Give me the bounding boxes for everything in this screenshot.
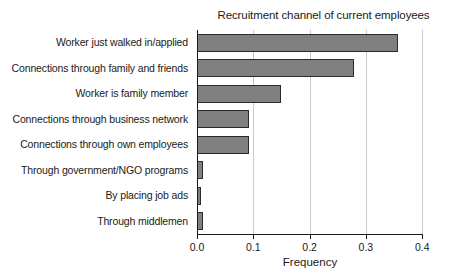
x-tick xyxy=(422,234,423,239)
x-tick xyxy=(197,234,198,239)
bar-slot xyxy=(197,56,422,82)
bar-slot xyxy=(197,30,422,56)
x-tick-label: 0.3 xyxy=(359,241,374,253)
category-axis-labels: Worker just walked in/appliedConnections… xyxy=(0,30,193,234)
bar[interactable] xyxy=(197,136,249,154)
x-tick xyxy=(253,234,254,239)
category-label: By placing job ads xyxy=(0,183,193,209)
category-label: Worker is family member xyxy=(0,81,193,107)
x-tick xyxy=(366,234,367,239)
bar-slot xyxy=(197,209,422,235)
bar[interactable] xyxy=(197,85,281,103)
bar[interactable] xyxy=(197,110,249,128)
x-tick-label: 0.0 xyxy=(190,241,205,253)
gridline-0.4 xyxy=(422,30,423,234)
x-tick-label: 0.4 xyxy=(415,241,430,253)
category-label: Worker just walked in/applied xyxy=(0,30,193,56)
bar-slot xyxy=(197,81,422,107)
category-label: Connections through business network xyxy=(0,107,193,133)
bar-chart: Recruitment channel of current employees… xyxy=(0,0,450,278)
bar-slot xyxy=(197,107,422,133)
bar-slot xyxy=(197,183,422,209)
category-label: Through government/NGO programs xyxy=(0,158,193,184)
plot-area xyxy=(197,30,422,234)
x-axis-label: Frequency xyxy=(197,256,423,268)
bars-layer xyxy=(197,30,422,234)
bar[interactable] xyxy=(197,34,398,52)
y-axis-line xyxy=(197,30,198,234)
bar-slot xyxy=(197,132,422,158)
x-tick-label: 0.1 xyxy=(246,241,261,253)
x-tick xyxy=(310,234,311,239)
bar-slot xyxy=(197,158,422,184)
chart-title: Recruitment channel of current employees xyxy=(197,9,450,21)
bar[interactable] xyxy=(197,59,354,77)
category-label: Through middlemen xyxy=(0,209,193,235)
category-label: Connections through own employees xyxy=(0,132,193,158)
category-label: Connections through family and friends xyxy=(0,56,193,82)
x-tick-label: 0.2 xyxy=(302,241,317,253)
